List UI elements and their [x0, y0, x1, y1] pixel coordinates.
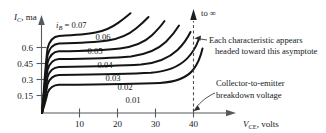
breakdown-note-group: Collector-to-emitter breakdown voltage [193, 78, 284, 111]
asymptote-note-line2: headed toward this asymptote [215, 46, 318, 56]
curve-label-0.02: 0.02 [117, 82, 132, 92]
x-axis-arrow [226, 110, 236, 116]
curve-label-0.01: 0.01 [125, 95, 140, 105]
x-tick-label-0: 10 [75, 119, 85, 129]
y-axis-label-unit: , ma [21, 12, 37, 22]
x-axis-label: VCE, volts [243, 119, 279, 130]
y-tick-label-0: 0.6 [22, 43, 34, 53]
to-infinity-label: to ∞ [201, 8, 216, 18]
transistor-characteristics-chart: 0.6 0.45 0.3 0.15 10 20 30 40 IC, ma VCE… [0, 0, 326, 133]
asymptote-arrow [190, 9, 197, 20]
y-ticks-group: 0.6 0.45 0.3 0.15 [17, 43, 46, 101]
curve-label-0.06: 0.06 [95, 32, 111, 42]
base-current-equals: = 0.07 [62, 20, 87, 30]
asymptote-note-line1: Each characteristic appears [209, 35, 303, 45]
x-tick-label-2: 30 [151, 119, 161, 129]
asymptote-note-group: Each characteristic appears headed towar… [195, 35, 318, 57]
base-current-label: iB = 0.07 [56, 20, 87, 31]
y-axis-label: IC, ma [13, 12, 37, 23]
x-axis-label-unit: , volts [257, 119, 280, 129]
curve-label-0.04: 0.04 [97, 60, 113, 70]
curve-labels-group: 0.06 0.05 0.04 0.03 0.02 0.01 [87, 32, 140, 105]
x-axis-label-sub: CE [249, 123, 257, 130]
x-tick-label-1: 20 [113, 119, 123, 129]
y-axis-arrow [38, 15, 45, 25]
y-tick-label-1: 0.45 [17, 59, 33, 69]
breakdown-note-line2: breakdown voltage [216, 90, 282, 100]
x-ticks-group: 10 20 30 40 [75, 109, 199, 130]
curve-label-0.05: 0.05 [87, 46, 102, 56]
breakdown-leader-line [196, 93, 216, 109]
asymptote-group [190, 9, 197, 112]
x-tick-label-3: 40 [189, 119, 199, 129]
axis-labels-group: IC, ma VCE, volts [13, 12, 279, 130]
y-tick-label-3: 0.15 [17, 91, 33, 101]
y-tick-label-2: 0.3 [22, 75, 34, 85]
breakdown-note-line1: Collector-to-emitter [216, 78, 285, 88]
figure-container: 0.6 0.45 0.3 0.15 10 20 30 40 IC, ma VCE… [0, 0, 326, 133]
